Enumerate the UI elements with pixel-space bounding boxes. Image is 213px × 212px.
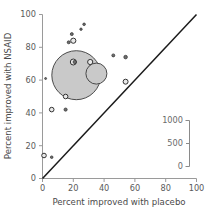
x-tick-label-0: 0 (40, 183, 45, 193)
data-point-open-4 (71, 38, 76, 43)
data-point-dot-5 (83, 23, 86, 26)
data-point-dot-4 (80, 28, 82, 30)
data-point-open-2 (88, 59, 93, 64)
x-tick-label-80: 80 (160, 183, 170, 193)
y-tick-label-0: 0 (31, 173, 36, 183)
legend-label-0: 0 (178, 161, 183, 171)
chart-canvas: 0 20 40 60 80 100 0 20 40 60 80 100 Perc… (0, 0, 213, 212)
y-axis-title: Percent improved with NSAID (3, 32, 13, 159)
data-point-dot-3 (70, 33, 73, 36)
data-point-dot-7 (124, 55, 128, 59)
data-point-open-5 (123, 79, 128, 84)
data-point-dot-9 (50, 156, 53, 159)
data-point-bubble-medium (86, 63, 107, 84)
x-axis-title: Percent improved with placebo (52, 197, 185, 207)
data-point-dot-2 (67, 41, 70, 44)
data-point-open-7 (42, 153, 47, 158)
x-tick-label-40: 40 (99, 183, 109, 193)
y-tick-label-60: 60 (26, 75, 36, 85)
y-tick-label-100: 100 (20, 9, 36, 19)
data-points-group (42, 23, 128, 159)
legend-label-500: 500 (167, 138, 183, 148)
data-point-dot-1 (73, 60, 76, 63)
x-tick-labels: 0 20 40 60 80 100 (40, 183, 204, 193)
data-point-dot-10 (45, 78, 47, 80)
y-tick-labels: 0 20 40 60 80 100 (20, 9, 36, 183)
bubble-size-legend: 1000 500 0 (162, 115, 189, 171)
data-point-open-3 (63, 94, 68, 99)
data-point-dot-8 (64, 108, 67, 111)
x-tick-label-60: 60 (130, 183, 140, 193)
y-tick-label-40: 40 (26, 108, 36, 118)
data-point-dot-6 (112, 54, 115, 57)
x-tick-label-100: 100 (189, 183, 205, 193)
y-tick-label-80: 80 (26, 42, 36, 52)
legend-label-1000: 1000 (162, 115, 183, 125)
scatter-chart: 0 20 40 60 80 100 0 20 40 60 80 100 Perc… (0, 0, 213, 212)
x-tick-marks (43, 179, 197, 183)
data-point-open-6 (49, 107, 54, 112)
x-tick-label-20: 20 (68, 183, 78, 193)
y-tick-label-20: 20 (26, 141, 36, 151)
